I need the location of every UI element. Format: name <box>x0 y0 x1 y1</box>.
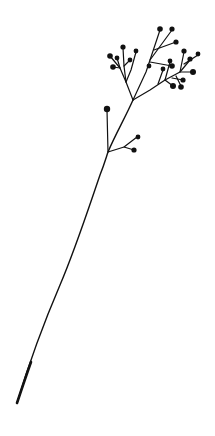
botanical-illustration <box>0 0 215 436</box>
flower-buds <box>104 26 201 152</box>
bud-dot <box>173 39 178 44</box>
bud-dot <box>169 26 174 31</box>
bud-dot <box>136 135 141 140</box>
bud-dot <box>178 84 184 90</box>
branch <box>133 30 160 100</box>
branch <box>110 56 133 100</box>
bud-dot <box>110 64 116 70</box>
bud-dot <box>169 63 175 69</box>
flower-stem <box>17 100 133 403</box>
branch <box>126 52 136 82</box>
bud-dot <box>196 52 201 57</box>
branch <box>133 80 173 100</box>
bud-dot <box>180 77 185 82</box>
bud-dot <box>168 59 173 64</box>
branch <box>107 110 108 152</box>
branch <box>154 42 176 50</box>
flower-branches <box>107 30 198 152</box>
bud-dot <box>120 44 125 49</box>
bud-dot <box>134 49 139 54</box>
bud-dot <box>161 67 166 72</box>
bud-dot <box>131 147 136 152</box>
bud-dot <box>157 26 163 32</box>
bud-dot <box>190 69 196 75</box>
stem-base <box>17 362 31 403</box>
bud-dot <box>115 56 120 61</box>
bud-dot <box>170 83 176 89</box>
bud-dot <box>107 53 113 59</box>
bud-dot <box>104 106 110 112</box>
bud-dot <box>128 58 133 63</box>
bud-dot <box>187 56 192 61</box>
bud-dot <box>181 48 186 53</box>
bud-dot <box>147 64 152 69</box>
